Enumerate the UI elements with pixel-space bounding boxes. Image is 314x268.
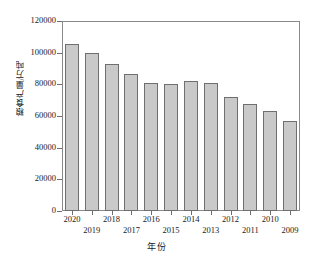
y-axis-tick-label: 40000 [35, 143, 56, 152]
bar-2015 [164, 84, 178, 211]
bar-2019 [85, 53, 99, 211]
x-axis-tick-label: 2020 [59, 214, 85, 224]
x-axis-tick-label: 2011 [237, 225, 263, 235]
x-axis-tick-mark [171, 211, 172, 215]
x-axis-tick-label: 2017 [118, 225, 144, 235]
bar-2011 [243, 104, 257, 211]
y-axis-tick-label: 100000 [31, 48, 57, 57]
y-axis-tick-mark [57, 53, 62, 54]
x-axis-tick-label: 2013 [198, 225, 224, 235]
x-axis-tick-mark [211, 211, 212, 215]
x-axis-tick-label: 2016 [138, 214, 164, 224]
bar-2010 [263, 111, 277, 211]
y-axis-tick-mark [57, 179, 62, 180]
x-axis-tick-label: 2014 [178, 214, 204, 224]
y-axis-tick-mark [57, 21, 62, 22]
bar-2016 [144, 83, 158, 211]
bar-2018 [105, 64, 119, 211]
x-axis-tick-mark [250, 211, 251, 215]
bar-series [62, 21, 300, 211]
y-axis-tick-mark [57, 148, 62, 149]
y-axis-tick-mark [57, 84, 62, 85]
bar-2009 [283, 121, 297, 211]
x-axis-tick-label: 2010 [257, 214, 283, 224]
y-axis-tick-label: 60000 [35, 111, 56, 120]
x-axis-tick-mark [290, 211, 291, 215]
y-axis-tick-labels: 020000400006000080000100000120000 [0, 0, 56, 268]
y-axis-tick-label: 0 [52, 206, 56, 215]
x-axis-title: 年份 [0, 240, 314, 253]
x-axis-tick-mark [131, 211, 132, 215]
x-axis-tick-label: 2009 [277, 225, 303, 235]
y-axis-title: 粮食产量/万吨 [16, 60, 30, 116]
bar-2013 [204, 83, 218, 211]
x-axis-tick-label: 2012 [218, 214, 244, 224]
x-axis-tick-label: 2015 [158, 225, 184, 235]
y-axis-tick-mark [57, 211, 62, 212]
bar-2017 [124, 74, 138, 211]
y-axis-tick-label: 80000 [35, 79, 56, 88]
y-axis-tick-mark [57, 116, 62, 117]
y-axis-tick-label: 20000 [35, 174, 56, 183]
bar-2012 [224, 97, 238, 211]
grain-output-bar-chart: 020000400006000080000100000120000 粮食产量/万… [0, 0, 314, 268]
x-axis-tick-mark [92, 211, 93, 215]
y-axis-tick-label: 120000 [31, 16, 57, 25]
x-axis-tick-label: 2019 [79, 225, 105, 235]
x-axis-tick-label: 2018 [99, 214, 125, 224]
bar-2014 [184, 81, 198, 211]
bar-2020 [65, 44, 79, 211]
